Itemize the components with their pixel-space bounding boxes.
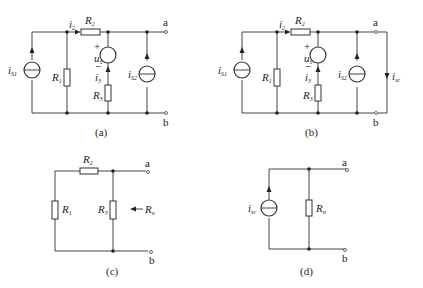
terminal-b-label: b: [163, 116, 169, 128]
svg-text:R3: R3: [97, 203, 108, 216]
svg-text:b: b: [342, 252, 348, 264]
svg-text:R1: R1: [51, 71, 62, 84]
svg-text:R1: R1: [61, 203, 72, 216]
current-source-is2: [139, 53, 155, 82]
resistor-r2: [81, 29, 100, 35]
panel-a-caption: (a): [95, 126, 108, 139]
svg-text:iS1: iS1: [8, 64, 17, 77]
svg-text:R3: R3: [302, 89, 313, 102]
svg-text:i2: i2: [279, 18, 285, 31]
arrow-isc: [385, 73, 390, 79]
circuit-panel-c: a b R2 R1 R3 Ro (c): [52, 153, 155, 278]
svg-text:(b): (b): [305, 126, 318, 139]
svg-text:R2: R2: [294, 14, 305, 27]
svg-text:iS2: iS2: [128, 68, 137, 81]
svg-text:+: +: [304, 40, 310, 52]
svg-text:b: b: [373, 116, 379, 128]
resistor-r3: [105, 85, 111, 101]
terminal-a: [165, 31, 168, 34]
svg-text:a: a: [342, 156, 347, 168]
svg-text:a: a: [373, 16, 378, 28]
svg-text:R2: R2: [84, 14, 95, 27]
resistor-r1: [64, 69, 70, 86]
terminal-a-label: a: [163, 16, 168, 28]
svg-text:(d): (d): [300, 265, 313, 278]
svg-text:(c): (c): [106, 265, 119, 278]
svg-text:iS2: iS2: [338, 68, 347, 81]
circuit-panel-a: a b R2 i2 iS1 R1 + uS − i3 R3 iS2 (a): [8, 14, 169, 139]
svg-text:isc: isc: [248, 202, 256, 215]
svg-text:iS1: iS1: [218, 64, 227, 77]
svg-text:R2: R2: [82, 153, 93, 166]
svg-text:a: a: [145, 157, 150, 169]
svg-text:i3: i3: [95, 71, 101, 84]
svg-text:Ro: Ro: [144, 203, 155, 216]
arrow-i2: [75, 30, 80, 35]
svg-text:i2: i2: [69, 18, 75, 31]
circuit-panel-b: a b R2 i2 iS1 R1 + uS − i3 R3 iS2 isc (b…: [218, 14, 400, 139]
svg-text:i3: i3: [305, 71, 311, 84]
arrow-ro: [130, 207, 136, 212]
current-source-is1: [24, 47, 40, 78]
svg-text:Ro: Ro: [315, 202, 326, 215]
current-source-is1: [234, 47, 250, 78]
terminal-b: [165, 112, 168, 115]
svg-text:isc: isc: [392, 70, 400, 83]
circuit-panel-d: a b isc Ro (d): [248, 156, 349, 278]
current-source-isc: [261, 186, 277, 216]
svg-text:R1: R1: [261, 71, 272, 84]
svg-text:R3: R3: [92, 89, 103, 102]
svg-text:b: b: [149, 254, 155, 266]
svg-text:+: +: [94, 40, 100, 52]
current-source-is2: [349, 53, 365, 82]
